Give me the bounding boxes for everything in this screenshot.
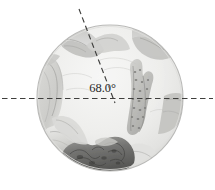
angle-measurement-figure: 68.0°	[0, 0, 215, 190]
illustration-canvas	[0, 0, 215, 190]
circular-field-of-view	[37, 25, 187, 174]
